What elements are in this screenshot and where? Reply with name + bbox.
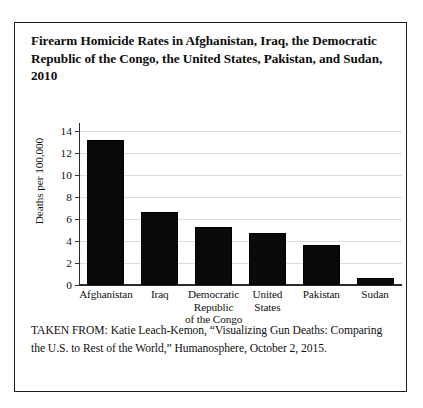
y-tick-label: 6 [66, 213, 72, 225]
bar-series [79, 131, 402, 285]
y-tick-label: 2 [66, 257, 72, 269]
bar [87, 140, 124, 285]
y-tick-label: 10 [61, 169, 72, 181]
y-tick-label: 4 [66, 235, 72, 247]
bar [357, 278, 394, 285]
chart-title: Firearm Homicide Rates in Afghanistan, I… [31, 32, 383, 85]
source-note: TAKEN FROM: Katie Leach-Kemon, “Visualiz… [31, 322, 387, 357]
y-tick-mark [75, 285, 79, 286]
chart-area: Deaths per 100,000 02468101214 Afghanist… [15, 95, 406, 305]
x-axis-label-line: States [224, 301, 310, 314]
bar [249, 233, 286, 285]
x-axis-label: Sudan [332, 288, 418, 301]
y-tick-label: 8 [66, 191, 72, 203]
bar [141, 212, 178, 285]
y-tick-label: 12 [61, 147, 72, 159]
plot-area: 02468101214 [79, 131, 399, 285]
figure-frame: Firearm Homicide Rates in Afghanistan, I… [14, 22, 407, 392]
y-tick-label: 14 [61, 125, 72, 137]
y-axis-title: Deaths per 100,000 [33, 121, 45, 241]
x-axis-label-line: Sudan [332, 288, 418, 301]
bar [303, 245, 340, 285]
bar [195, 227, 232, 285]
